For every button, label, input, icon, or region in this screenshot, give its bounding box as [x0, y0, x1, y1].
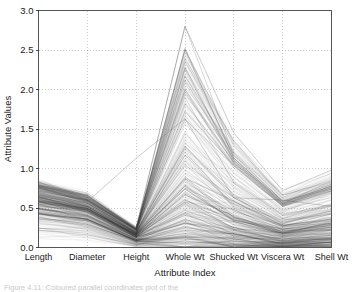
- x-category-label-height: Height: [123, 252, 150, 262]
- y-tick-label: 1.0: [20, 163, 33, 174]
- figure-container: 0.00.51.01.52.02.53.0LengthDiameterHeigh…: [0, 0, 358, 292]
- x-category-label-shell-wt: Shell Wt: [315, 252, 349, 262]
- y-tick-label: 1.5: [20, 123, 33, 134]
- x-category-label-diameter: Diameter: [69, 252, 106, 262]
- x-category-label-shucked-wt: Shucked Wt: [210, 252, 259, 262]
- y-axis-title: Attribute Values: [2, 96, 13, 163]
- x-category-label-length: Length: [25, 252, 53, 262]
- y-tick-label: 2.5: [20, 44, 33, 55]
- y-tick-label: 3.0: [20, 5, 33, 16]
- x-axis-title: Attribute Index: [154, 267, 216, 278]
- figure-caption: Figure 4.11: Coloured parallel coordinat…: [4, 284, 354, 292]
- y-tick-label: 0.5: [20, 202, 33, 213]
- y-tick-label: 2.0: [20, 84, 33, 95]
- x-category-label-whole-wt: Whole Wt: [165, 252, 205, 262]
- x-category-label-viscera-wt: Viscera Wt: [261, 252, 305, 262]
- parallel-coordinates-chart: 0.00.51.01.52.02.53.0LengthDiameterHeigh…: [0, 0, 358, 292]
